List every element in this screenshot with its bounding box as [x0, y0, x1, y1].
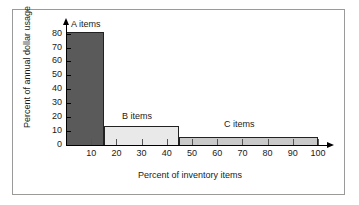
chart-frame: [12, 9, 345, 195]
y-axis-title: Percent of annual dollar usage: [22, 0, 32, 137]
figure: Percent of annual dollar usage Percent o…: [0, 0, 359, 205]
x-axis-title: Percent of inventory items: [55, 170, 325, 180]
